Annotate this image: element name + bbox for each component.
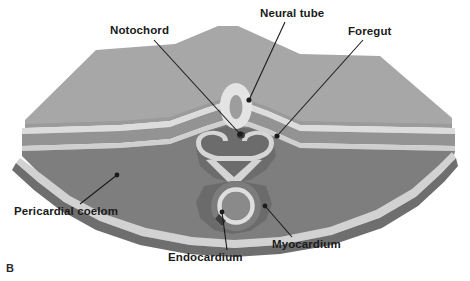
neural-canal-lumen: [230, 95, 243, 119]
arrow-dot-pericardial: [115, 173, 120, 178]
arrow-dot-endocardium: [220, 210, 225, 215]
heart-tube: [211, 181, 261, 231]
label-myocardium: Myocardium: [272, 239, 341, 251]
arrow-dot-foregut: [274, 133, 279, 138]
label-endocardium: Endocardium: [168, 252, 243, 264]
label-pericardial-coelom: Pericardial coelom: [14, 206, 118, 218]
figure-panel-b: Notochord Neural tube Foregut Pericardia…: [0, 0, 470, 281]
arrow-dot-notochord: [237, 131, 242, 136]
arrow-dot-neural-tube: [246, 97, 251, 102]
label-neural-tube: Neural tube: [260, 8, 324, 20]
embryo-cross-section-diagram: [0, 0, 470, 281]
neural-tube-structure: [220, 83, 252, 129]
label-notochord: Notochord: [110, 25, 169, 37]
foregut-lumen-band: [214, 156, 256, 161]
label-foregut: Foregut: [348, 26, 392, 38]
arrow-dot-myocardium: [263, 204, 268, 209]
panel-letter: B: [6, 262, 14, 274]
heart-lumen: [222, 192, 250, 220]
